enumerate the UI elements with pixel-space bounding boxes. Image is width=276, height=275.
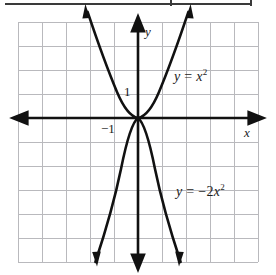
parabola-up-arrow-left xyxy=(82,4,90,19)
equation-2-operator: = xyxy=(183,184,199,199)
parabola-up-arrow-right xyxy=(186,4,194,19)
tick-label-y-one: 1 xyxy=(124,85,131,98)
equation-2-coefficient: −2 xyxy=(198,184,214,199)
y-axis-label: y xyxy=(145,25,151,38)
tick-label-x-negative-one: −1 xyxy=(101,122,115,135)
parabola-comparison-figure: y x 1 −1 y = x2 y = −2x2 xyxy=(0,0,276,275)
parabola-down-arrow-left xyxy=(92,252,101,267)
parabola-down-arrow-right xyxy=(175,252,184,267)
equation-1-operator: = xyxy=(181,69,197,84)
coordinate-plane xyxy=(0,0,276,275)
x-axis-label: x xyxy=(244,126,250,139)
equation-label-parabola-down: y = −2x2 xyxy=(176,185,225,199)
equation-label-parabola-up: y = x2 xyxy=(174,70,208,84)
equation-2-exponent: 2 xyxy=(220,182,225,192)
equation-1-exponent: 2 xyxy=(203,67,208,77)
